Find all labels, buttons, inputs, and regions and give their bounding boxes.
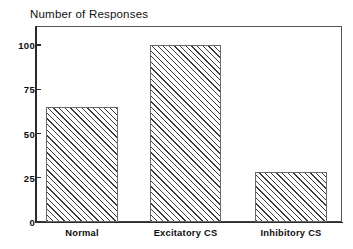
y-tick-label: 25 bbox=[24, 172, 35, 183]
bar-normal bbox=[46, 107, 118, 222]
y-tick-label: 100 bbox=[18, 40, 35, 51]
bar-inhibitory-cs bbox=[255, 172, 327, 222]
y-tick-mark bbox=[36, 221, 41, 222]
y-tick-mark bbox=[36, 44, 41, 45]
y-tick-mark bbox=[36, 89, 41, 90]
y-tick-mark bbox=[36, 133, 41, 134]
x-tick-label: Normal bbox=[65, 228, 99, 238]
x-tick-label: Inhibitory CS bbox=[260, 228, 321, 238]
y-tick-label: 50 bbox=[24, 128, 35, 139]
x-tick-label: Excitatory CS bbox=[154, 228, 218, 238]
y-tick-mark bbox=[36, 177, 41, 178]
y-tick-label: 0 bbox=[29, 217, 35, 228]
bar-chart-figure: Number of Responses 1007550250 NormalExc… bbox=[0, 0, 353, 249]
y-axis-line bbox=[35, 26, 37, 223]
bar-excitatory-cs bbox=[150, 45, 221, 222]
y-tick-label: 75 bbox=[24, 84, 35, 95]
chart-title: Number of Responses bbox=[30, 8, 148, 20]
